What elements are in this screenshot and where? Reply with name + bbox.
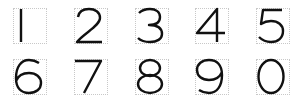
digit-cell-4 <box>181 0 241 50</box>
digit-3-glyph <box>121 0 181 50</box>
digit-cell-2 <box>60 0 120 50</box>
digit-glyph-grid <box>0 0 302 101</box>
digit-cell-1 <box>0 0 60 50</box>
digit-0-glyph <box>242 51 302 101</box>
digit-6-glyph <box>0 51 60 101</box>
digit-cell-5 <box>242 0 302 50</box>
digit-5-glyph <box>242 0 302 50</box>
digit-cell-7 <box>60 51 120 101</box>
digit-cell-3 <box>121 0 181 50</box>
digit-4-glyph <box>181 0 241 50</box>
digit-9-glyph <box>181 51 241 101</box>
digit-cell-8 <box>121 51 181 101</box>
digit-cell-9 <box>181 51 241 101</box>
digit-1-glyph <box>0 0 60 50</box>
digit-2-glyph <box>60 0 120 50</box>
digit-8-glyph <box>121 51 181 101</box>
digit-cell-0 <box>242 51 302 101</box>
digit-cell-6 <box>0 51 60 101</box>
digit-7-glyph <box>60 51 120 101</box>
